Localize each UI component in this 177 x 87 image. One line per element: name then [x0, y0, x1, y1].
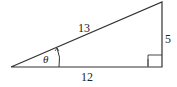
hypotenuse-label: 13: [78, 21, 90, 35]
angle-label: θ: [43, 53, 49, 65]
adjacent-label: 12: [81, 70, 93, 84]
opposite-label: 5: [165, 32, 171, 46]
right-triangle-diagram: 13 5 12 θ: [0, 0, 177, 87]
angle-arc: [57, 48, 60, 67]
right-angle-marker: [148, 55, 162, 67]
